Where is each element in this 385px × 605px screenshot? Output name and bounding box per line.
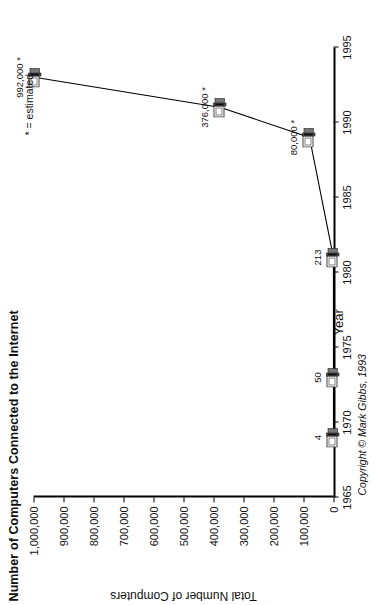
y-tick [93,497,94,502]
y-tick-label: 100,000 [297,506,309,546]
y-tick [153,497,154,502]
chart-title: Number of Computers Connected to the Int… [6,310,20,601]
x-tick-label: 1975 [340,335,352,359]
y-tick-label: 800,000 [87,506,99,546]
y-tick [273,497,274,502]
x-tick-label: 1995 [340,35,352,59]
y-tick [33,497,34,502]
data-point-label: 376,000 * [198,87,209,128]
series-line [33,47,333,497]
data-point-label: 213 [311,249,322,265]
y-tick [63,497,64,502]
plot-area: 1965197019751980198519901995 0100,000200… [33,47,333,497]
y-tick [243,497,244,502]
x-tick [333,46,338,47]
y-tick [333,497,334,502]
x-tick-label: 1990 [340,110,352,134]
copyright-note: Copyright © Mark Gibbs, 1993 [355,354,367,495]
computer-icon [325,367,340,387]
estimated-note: * = estimated [22,73,34,135]
chart-canvas: Number of Computers Connected to the Int… [0,0,385,605]
data-point-label: 80,000 * [287,119,298,154]
y-tick [183,497,184,502]
y-tick-label: 700,000 [117,506,129,546]
data-point-label: 50 [311,372,322,383]
y-tick [303,497,304,502]
x-tick-label: 1985 [340,185,352,209]
y-tick-label: 900,000 [57,506,69,546]
y-tick-label: 300,000 [237,506,249,546]
y-tick-label: 1,000,000 [27,506,39,555]
x-tick [333,196,338,197]
x-tick-label: 1965 [340,485,352,509]
data-point-label: 4 [311,434,322,439]
y-tick-label: 500,000 [177,506,189,546]
x-tick-label: 1970 [340,410,352,434]
x-axis-label: Year [330,309,345,335]
computer-icon [325,247,340,267]
y-tick-label: 600,000 [147,506,159,546]
x-tick-label: 1980 [340,260,352,284]
y-tick [123,497,124,502]
y-tick-label: 200,000 [267,506,279,546]
y-tick-label: 0 [327,506,339,512]
computer-icon [325,427,340,447]
computer-icon [302,127,317,147]
x-tick [333,121,338,122]
y-tick [213,497,214,502]
computer-icon [213,97,228,117]
y-axis-label: Total Number of Computers [110,588,257,602]
y-tick-label: 400,000 [207,506,219,546]
